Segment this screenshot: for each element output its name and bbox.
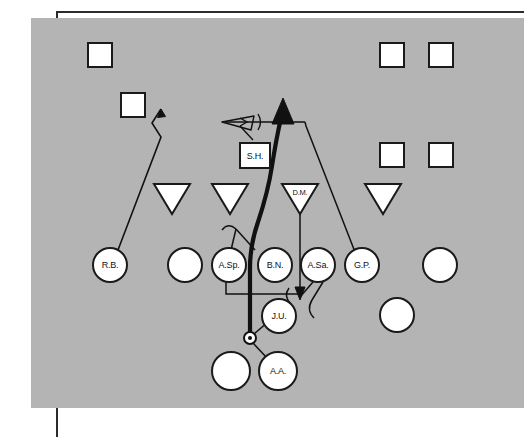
play-diagram-page: S.H. D.M.: [0, 0, 524, 437]
frame-top-border: [56, 11, 524, 13]
playing-field: [31, 18, 524, 408]
